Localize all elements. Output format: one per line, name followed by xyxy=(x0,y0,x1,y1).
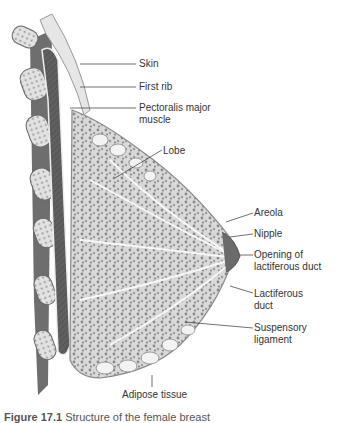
breast-body xyxy=(70,110,236,378)
figure-number: Figure 17.1 xyxy=(4,411,62,423)
label-lactiferous-line2: duct xyxy=(254,300,273,312)
label-lactiferous-line1: Lactiferous xyxy=(254,288,303,300)
label-suspensory-line1: Suspensory xyxy=(254,322,307,334)
label-lobe: Lobe xyxy=(163,145,185,157)
figure-caption-text: Structure of the female breast xyxy=(65,411,210,423)
label-first-rib: First rib xyxy=(139,81,172,93)
label-nipple: Nipple xyxy=(254,228,282,240)
label-suspensory-line2: ligament xyxy=(254,334,292,346)
figure-caption: Figure 17.1 Structure of the female brea… xyxy=(4,411,210,423)
label-opening-line2: lactiferous duct xyxy=(254,261,321,273)
label-adipose-tissue: Adipose tissue xyxy=(122,389,187,401)
label-areola: Areola xyxy=(254,207,283,219)
label-skin: Skin xyxy=(139,58,158,70)
label-pectoralis-line2: muscle xyxy=(139,114,171,126)
label-opening-line1: Opening of xyxy=(254,249,303,261)
label-pectoralis-line1: Pectoralis major xyxy=(139,102,211,114)
